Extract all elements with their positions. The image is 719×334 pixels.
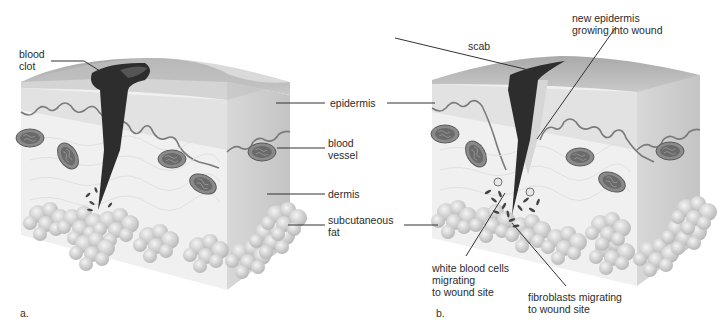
label-new-epidermis: new epidermis growing into wound xyxy=(572,12,662,36)
label-epidermis: epidermis xyxy=(330,97,376,109)
label-blood-vessel: blood vessel xyxy=(328,137,358,161)
panel-letter-a: a. xyxy=(20,307,29,319)
panel-b-skin-block xyxy=(431,56,717,286)
label-blood-clot: blood clot xyxy=(19,48,45,72)
label-dermis: dermis xyxy=(328,188,360,200)
panel-a-skin-block xyxy=(16,58,307,290)
panel-letter-b: b. xyxy=(436,307,445,319)
label-white-blood-cells: white blood cells migrating to wound sit… xyxy=(432,262,509,298)
wound-healing-figure xyxy=(0,0,719,334)
label-scab: scab xyxy=(468,40,490,52)
label-subcutaneous-fat: subcutaneous fat xyxy=(328,214,393,238)
label-fibroblasts: fibroblasts migrating to wound site xyxy=(528,291,622,315)
